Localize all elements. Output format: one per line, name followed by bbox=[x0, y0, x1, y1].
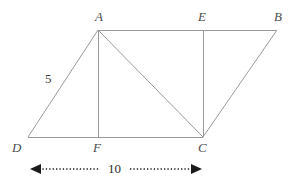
vertex-label-C: C bbox=[198, 141, 207, 154]
segment-A-C-diagonal bbox=[98, 30, 203, 137]
base-dimension-label-10: 10 bbox=[108, 162, 121, 175]
figure-interior-lines bbox=[98, 30, 203, 137]
side-length-label-5: 5 bbox=[45, 72, 52, 85]
figure-outline bbox=[28, 30, 277, 137]
dimension-arrowhead-left bbox=[30, 164, 41, 174]
segment-C-B bbox=[203, 30, 277, 137]
geometry-figure: A E B D F C 5 10 bbox=[0, 0, 289, 181]
geometry-canvas bbox=[0, 0, 289, 181]
vertex-label-F: F bbox=[93, 141, 101, 154]
vertex-label-B: B bbox=[274, 10, 282, 23]
vertex-label-D: D bbox=[12, 141, 21, 154]
segment-D-A bbox=[28, 30, 98, 137]
dimension-arrowhead-right bbox=[191, 164, 202, 174]
vertex-label-A: A bbox=[95, 10, 103, 23]
vertex-label-E: E bbox=[198, 10, 206, 23]
